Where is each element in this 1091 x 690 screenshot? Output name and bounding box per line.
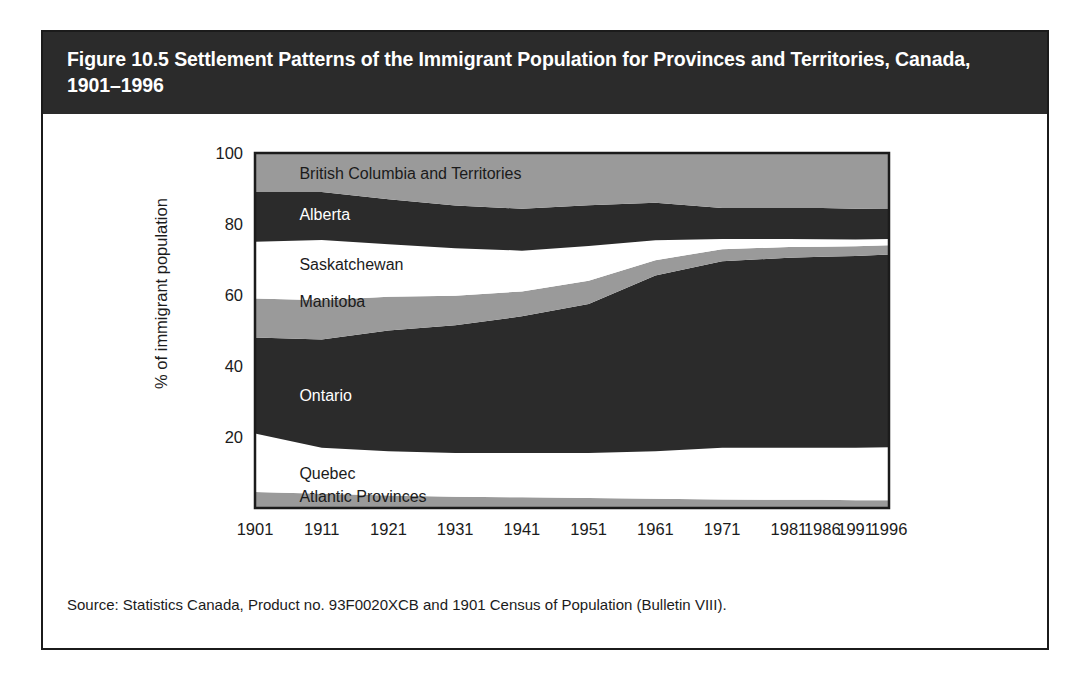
x-tick-label: 1951: [570, 520, 607, 538]
series-inline-label: Atlantic Provinces: [299, 488, 426, 505]
series-inline-label: Quebec: [299, 465, 355, 482]
y-tick-label: 100: [215, 144, 243, 162]
series-inline-label: Saskatchewan: [299, 256, 403, 273]
x-tick-label: 1971: [704, 520, 741, 538]
x-tick-label: 1991: [837, 520, 874, 538]
series-inline-label: Ontario: [299, 387, 352, 404]
chart-area: % of immigrant population 20406080100190…: [43, 114, 1047, 574]
x-tick-label: 1941: [504, 520, 541, 538]
x-tick-label: 1981: [771, 520, 808, 538]
x-tick-label: 1986: [804, 520, 841, 538]
x-tick-label: 1901: [237, 520, 274, 538]
y-tick-label: 40: [225, 357, 243, 375]
series-inline-label: British Columbia and Territories: [299, 165, 521, 182]
x-tick-label: 1911: [304, 520, 339, 538]
y-tick-label: 20: [225, 428, 243, 446]
source-note: Source: Statistics Canada, Product no. 9…: [43, 596, 1047, 613]
figure-page: Figure 10.5 Settlement Patterns of the I…: [0, 0, 1091, 690]
stacked-area-chart: 2040608010019011911192119311941195119611…: [43, 114, 1047, 574]
x-tick-label: 1921: [370, 520, 407, 538]
figure-title: Figure 10.5 Settlement Patterns of the I…: [43, 47, 1047, 99]
series-inline-label: Alberta: [299, 206, 350, 223]
y-tick-label: 60: [225, 286, 243, 304]
series-inline-label: Manitoba: [299, 293, 365, 310]
x-tick-label: 1996: [871, 520, 908, 538]
x-tick-label: 1961: [637, 520, 674, 538]
x-tick-label: 1931: [437, 520, 474, 538]
figure-title-banner: Figure 10.5 Settlement Patterns of the I…: [43, 32, 1047, 114]
y-tick-label: 80: [225, 215, 243, 233]
